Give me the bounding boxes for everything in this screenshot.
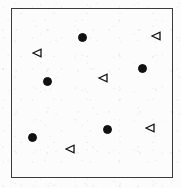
data-point-circle (78, 33, 87, 42)
data-point-triangle-left (65, 144, 75, 154)
data-point-circle (103, 125, 112, 134)
data-point-triangle-left (151, 31, 161, 41)
data-point-circle (138, 64, 147, 73)
plot-frame-border (11, 8, 173, 178)
data-point-circle (28, 133, 37, 142)
data-point-triangle-left (145, 123, 155, 133)
data-point-triangle-left (32, 48, 42, 58)
data-point-triangle-left (98, 73, 108, 83)
scatter-figure (0, 0, 181, 188)
data-point-circle (43, 77, 52, 86)
